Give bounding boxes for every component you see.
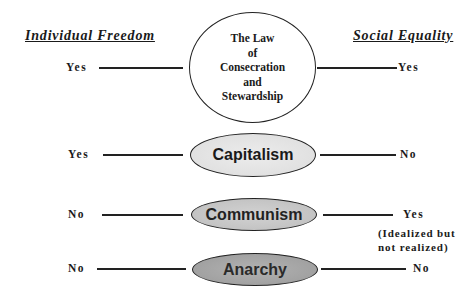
node-communism: Communism [191, 198, 317, 231]
law-line-5: Stewardship [220, 89, 285, 104]
node-law-of-consecration: The Law of Consecration and Stewardship [189, 12, 316, 123]
header-individual-freedom: Individual Freedom [25, 28, 155, 44]
connector-right-communism [323, 214, 393, 216]
communism-note: (Idealized but not realized) [378, 227, 456, 254]
connector-left-anarchy [97, 268, 186, 270]
freedom-value-capitalism: Yes [68, 148, 89, 160]
freedom-value-communism: No [68, 208, 85, 220]
law-line-3: Consecration [220, 60, 285, 75]
node-anarchy-label: Anarchy [223, 261, 287, 279]
equality-value-capitalism: No [400, 148, 417, 160]
node-capitalism-label: Capitalism [213, 146, 294, 164]
connector-right-law [317, 67, 397, 69]
node-law-label: The Law of Consecration and Stewardship [220, 31, 285, 104]
freedom-value-anarchy: No [68, 262, 85, 274]
communism-note-line-2: not realized) [378, 241, 456, 255]
header-social-equality: Social Equality [353, 28, 453, 44]
node-capitalism: Capitalism [190, 133, 316, 177]
equality-value-law: Yes [398, 61, 419, 73]
law-line-4: and [220, 75, 285, 90]
connector-right-anarchy [321, 268, 406, 270]
connector-left-capitalism [103, 154, 183, 156]
law-line-2: of [220, 46, 285, 61]
freedom-value-law: Yes [66, 61, 87, 73]
connector-left-communism [102, 214, 183, 216]
node-anarchy: Anarchy [192, 253, 318, 286]
equality-value-anarchy: No [413, 262, 430, 274]
node-communism-label: Communism [206, 206, 303, 224]
law-line-1: The Law [220, 31, 285, 46]
connector-right-capitalism [320, 154, 396, 156]
equality-value-communism: Yes [403, 208, 424, 220]
communism-note-line-1: (Idealized but [378, 227, 456, 241]
connector-left-law [99, 67, 183, 69]
